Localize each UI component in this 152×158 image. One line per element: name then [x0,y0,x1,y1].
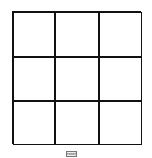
board-cell-4[interactable] [13,57,55,101]
board-cell-9[interactable] [99,101,142,145]
board-cell-6[interactable] [99,57,142,101]
board-cell-8[interactable] [55,101,99,145]
board-cell-1[interactable] [13,12,55,57]
tic-tac-toe-board [12,11,141,144]
reset-button[interactable]: reset [66,151,77,157]
board-cell-7[interactable] [13,101,55,145]
board-cell-5[interactable] [55,57,99,101]
board-cell-3[interactable] [99,12,142,57]
board-cell-2[interactable] [55,12,99,57]
